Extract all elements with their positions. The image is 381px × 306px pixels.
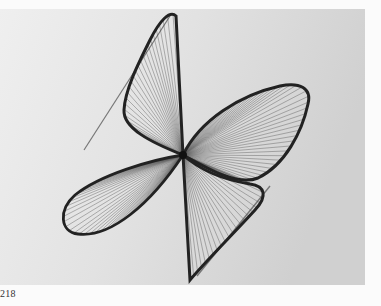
center-vertex bbox=[179, 151, 187, 159]
string-sculpture-illustration bbox=[0, 9, 365, 285]
page-number: 218 bbox=[0, 288, 16, 299]
sculpture-photograph bbox=[0, 9, 365, 285]
